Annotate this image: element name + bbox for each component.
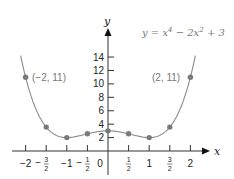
y-axis-label: y	[103, 15, 111, 28]
equation-label: y = x4 − 2x2 + 3	[141, 26, 225, 38]
y-tick-label: 12	[93, 65, 105, 76]
data-point	[167, 124, 172, 129]
annotation-right-point: (2, 11)	[152, 72, 180, 83]
svg-text:3: 3	[168, 156, 172, 163]
svg-text:1: 1	[85, 156, 89, 163]
axis-tick-labels: 2468101214−2−32−1−120121322	[20, 52, 194, 172]
data-point	[188, 74, 193, 79]
y-axis-arrow-icon	[105, 28, 112, 36]
data-point	[23, 74, 28, 79]
x-tick-label: −2	[20, 158, 32, 169]
y-tick-label: 6	[98, 105, 104, 116]
x-tick-label: 2	[188, 158, 194, 169]
x-tick-label: −1	[61, 158, 73, 169]
y-tick-label: 10	[93, 78, 105, 89]
data-point	[126, 131, 131, 136]
y-tick-label: 14	[93, 52, 105, 63]
svg-text:−: −	[77, 157, 83, 168]
x-tick-label-fraction: −32	[35, 156, 48, 172]
data-point	[64, 135, 69, 140]
svg-text:2: 2	[85, 165, 89, 172]
svg-text:−: −	[35, 157, 41, 168]
y-tick-label: 2	[98, 132, 104, 143]
data-point	[105, 128, 110, 133]
x-tick-label-fraction: 32	[167, 156, 172, 172]
x-axis-label: x	[214, 145, 221, 158]
x-tick-label: 1	[146, 158, 152, 169]
data-point	[44, 124, 49, 129]
x-tick-label-fraction: −12	[77, 156, 90, 172]
x-axis-arrow-icon	[202, 148, 210, 155]
x-tick-label: 0	[97, 158, 103, 169]
y-tick-label: 4	[98, 119, 104, 130]
svg-text:3: 3	[44, 156, 48, 163]
x-tick-label-fraction: 12	[126, 156, 131, 172]
axes	[12, 28, 210, 175]
function-graph: 2468101214−2−32−1−120121322 y = x4 − 2x2…	[0, 0, 234, 179]
svg-text:2: 2	[127, 165, 131, 172]
y-tick-label: 8	[98, 92, 104, 103]
data-point	[147, 135, 152, 140]
svg-text:2: 2	[168, 165, 172, 172]
data-point	[85, 131, 90, 136]
svg-text:2: 2	[44, 165, 48, 172]
svg-text:1: 1	[127, 156, 131, 163]
annotation-left-point: (−2, 11)	[32, 72, 66, 83]
